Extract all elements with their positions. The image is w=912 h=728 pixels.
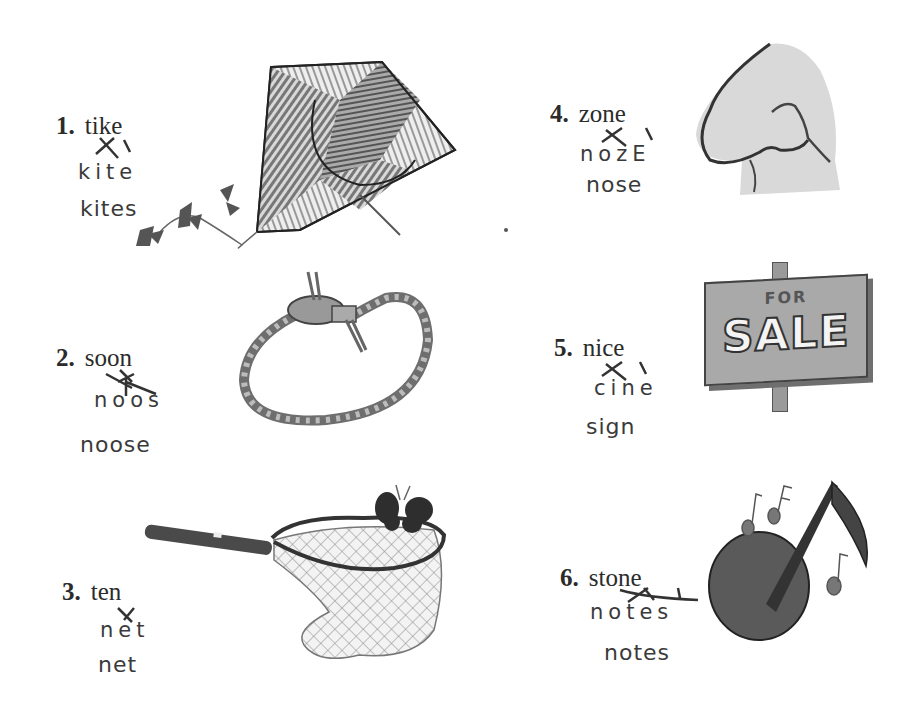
item-1-rearranged: kite [78,160,137,184]
nose-illustration [690,40,870,200]
printed-word: tike [85,112,123,139]
item-6-rearranged: notes [590,600,673,624]
item-1-answer: kites [80,196,137,221]
item-4-rearranged: nozE [580,142,650,166]
item-5-answer: sign [586,414,635,439]
item-number: 2. [56,344,75,371]
item-number: 5. [554,334,573,361]
item-number: 3. [62,578,81,605]
music-notes-illustration [704,474,894,644]
item-4-answer: nose [586,172,642,197]
item-2-rearranged: noos [94,388,164,412]
printed-word: nice [583,334,625,361]
item-3-rearranged: net [100,618,149,642]
item-6-answer: notes [604,640,670,665]
sign-text-sale: SALE [706,304,866,363]
page-speck [504,228,508,232]
printed-word: soon [85,344,132,371]
item-3-answer: net [98,652,137,677]
item-5-rearranged: cine [594,376,658,400]
printed-word: ten [91,578,122,605]
printed-word: zone [579,100,626,127]
noose-rope-illustration [236,270,436,435]
item-number: 1. [56,112,75,139]
kite-illustration [130,60,460,260]
for-sale-sign-illustration: FOR SALE [700,262,870,410]
sign-board: FOR SALE [704,274,868,387]
item-number: 4. [550,100,569,127]
item-2-answer: noose [80,432,151,457]
item-number: 6. [560,564,579,591]
butterfly-net-illustration [144,480,454,680]
item-3-prompt: 3.ten [62,578,121,606]
